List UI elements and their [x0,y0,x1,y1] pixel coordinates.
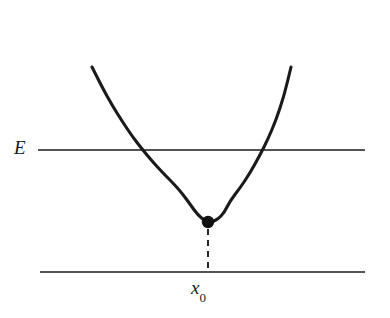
minimum-point-marker [202,216,214,228]
energy-level-label: E [14,138,26,157]
figure-background [0,0,390,318]
potential-well-figure: E x0 [0,0,390,318]
x0-position-label: x0 [191,278,206,301]
figure-canvas [0,0,390,318]
x0-subscript: 0 [199,290,206,305]
